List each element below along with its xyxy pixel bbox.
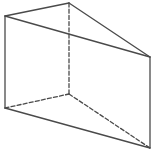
edge-ef-hidden — [69, 94, 150, 148]
prism-canvas — [0, 0, 152, 150]
edge-df — [5, 108, 150, 148]
triangular-prism-diagram — [0, 0, 152, 150]
edge-ab — [5, 3, 69, 16]
edge-ac — [5, 16, 150, 57]
prism-edges — [5, 3, 150, 148]
edge-de-hidden — [5, 94, 69, 108]
edge-bc — [69, 3, 150, 57]
